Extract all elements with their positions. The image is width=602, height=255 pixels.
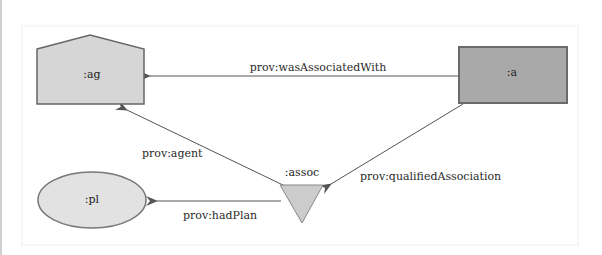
edge-was-associated-with[interactable]: prov:wasAssociatedWith [150, 61, 458, 76]
edge-label-agent: prov:agent [142, 147, 203, 160]
node-label-agent: :ag [83, 68, 100, 81]
edge-label-qualified-association: prov:qualifiedAssociation [360, 170, 501, 183]
edge-label-was-associated-with: prov:wasAssociatedWith [250, 61, 387, 74]
node-label-association: :assoc [285, 166, 319, 179]
edge-agent[interactable]: prov:agent [127, 110, 285, 186]
edge-had-plan[interactable]: prov:hadPlan [157, 201, 281, 222]
diagram-canvas: prov:wasAssociatedWith prov:qualifiedAss… [0, 0, 602, 255]
node-activity[interactable]: :a [459, 47, 567, 103]
node-agent[interactable]: :ag [37, 35, 144, 104]
edge-label-had-plan: prov:hadPlan [183, 209, 257, 222]
node-association[interactable]: :assoc [280, 166, 323, 223]
node-label-activity: :a [507, 66, 518, 79]
edge-qualified-association[interactable]: prov:qualifiedAssociation [331, 104, 501, 184]
prov-diagram: prov:wasAssociatedWith prov:qualifiedAss… [0, 0, 602, 255]
node-plan[interactable]: :pl [38, 172, 146, 228]
node-label-plan: :pl [85, 193, 100, 206]
association-triangle-shape [280, 185, 323, 223]
